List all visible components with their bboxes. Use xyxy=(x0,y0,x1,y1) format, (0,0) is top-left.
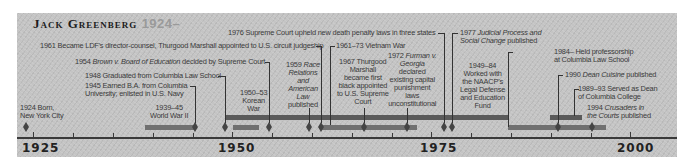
label-naacp: 1949–84 Worked with the NAACP's Legal De… xyxy=(460,62,505,110)
axis-tick xyxy=(630,132,631,137)
axis-tick xyxy=(511,133,512,137)
event-diamond-race xyxy=(306,122,312,132)
leader-ba xyxy=(195,86,196,123)
axis-tick xyxy=(232,132,233,137)
label-line: published xyxy=(286,101,320,109)
leader-race xyxy=(309,108,310,123)
label-rest: published xyxy=(507,36,537,45)
label-rest: published xyxy=(626,70,656,79)
label-dean: 1989–93 Served as Dean of Columbia Colle… xyxy=(578,85,657,101)
axis-tick xyxy=(352,133,353,137)
leader-gregg xyxy=(444,33,445,123)
leader-cuisine-h xyxy=(558,75,563,76)
axis-tick xyxy=(33,132,34,137)
label-year: 1990 xyxy=(565,70,581,79)
label-marshall: 1967 Thurgood Marshall became first blac… xyxy=(337,58,389,106)
label-line: War xyxy=(240,105,267,113)
leader-judicial xyxy=(452,33,453,123)
axis-tick xyxy=(591,133,592,137)
event-diamond-director xyxy=(318,122,324,132)
naacp-ldf-bar xyxy=(225,115,508,120)
label-director: 1961 Became LDF's director-counsel, Thur… xyxy=(40,42,323,50)
leader-gregg-h xyxy=(438,33,445,34)
korean-war-bar xyxy=(233,125,259,130)
axis-label-1975: 1975 xyxy=(420,141,457,155)
label-line: of Columbia College xyxy=(578,93,657,101)
dean-bar xyxy=(550,115,582,120)
leader-marshall xyxy=(364,108,365,123)
event-diamond-brown xyxy=(266,122,272,132)
axis-tick xyxy=(551,133,552,137)
timeline-axis xyxy=(17,137,677,139)
label-born: 1924 Born, New York City xyxy=(20,104,63,120)
event-diamond-law xyxy=(222,122,228,132)
label-rest: decided by Supreme Court xyxy=(182,57,265,66)
label-case: Brown v. Board of Education xyxy=(93,57,181,66)
label-gregg: 1976 Supreme Court upheld new death pena… xyxy=(228,29,435,37)
leader-dean xyxy=(574,89,575,116)
leader-judicial-h xyxy=(452,33,458,34)
event-diamond-crusaders xyxy=(589,122,595,132)
vietnam-war-bar xyxy=(321,125,417,130)
label-line: Fund xyxy=(460,102,505,110)
leader-director xyxy=(321,46,322,123)
event-diamond-judicial xyxy=(449,122,455,132)
axis-tick xyxy=(312,133,313,137)
label-race: 1959 Race Relations and American Law pub… xyxy=(286,61,320,109)
label-vietnam: 1961–73 Vietnam War xyxy=(336,42,405,50)
leader-brown xyxy=(269,62,270,123)
axis-tick xyxy=(193,133,194,137)
label-line: New York City xyxy=(20,112,63,120)
axis-label-2000: 2000 xyxy=(617,141,654,155)
label-prof: 1984– Held professorship at Columbia Law… xyxy=(554,48,633,64)
axis-tick xyxy=(113,133,114,137)
label-line: unconstitutional xyxy=(388,100,436,108)
title-name: Jack Greenberg xyxy=(33,16,137,31)
leader-prof xyxy=(508,52,509,127)
label-line: at Columbia Law School xyxy=(554,56,633,64)
label-title: the Courts xyxy=(587,111,619,120)
leader-law xyxy=(225,76,226,123)
label-brown: 1954 Brown v. Board of Education decided… xyxy=(75,58,265,66)
label-title: Dean Cuisine xyxy=(583,70,625,79)
label-law: 1948 Graduated from Columbia Law School xyxy=(85,72,221,80)
label-cuisine: 1990 Dean Cuisine published xyxy=(565,71,656,79)
axis-label-1925: 1925 xyxy=(22,141,59,155)
leader-vietnam-h xyxy=(330,46,335,47)
axis-tick xyxy=(392,133,393,137)
axis-tick xyxy=(431,132,432,137)
event-diamond-ba xyxy=(192,122,198,132)
label-line: World War II xyxy=(150,112,188,120)
event-diamond-furman xyxy=(404,122,410,132)
label-ww2: 1939–45 World War II xyxy=(150,104,188,120)
event-diamond-marshall xyxy=(361,122,367,132)
label-judicial: 1977 Judicial Process and Social Change … xyxy=(460,29,541,45)
leader-brown-h xyxy=(265,62,270,63)
ww2-bar xyxy=(145,125,195,130)
axis-tick xyxy=(153,133,154,137)
event-diamond-born xyxy=(23,122,29,132)
event-diamond-cuisine xyxy=(555,122,561,132)
title-years: 1924– xyxy=(142,16,181,31)
label-ba: 1945 Earned B.A. from Columbia Universit… xyxy=(85,82,187,98)
leader-prof-h xyxy=(508,52,513,53)
label-korea: 1950–53 Korean War xyxy=(240,89,267,113)
leader-cuisine xyxy=(558,75,559,123)
label-year: 1954 xyxy=(75,57,91,66)
label-line: University; enlisted in U.S. Navy xyxy=(85,90,187,98)
label-title: Social Change xyxy=(460,36,505,45)
label-line: Court xyxy=(337,98,389,106)
label-rest: published xyxy=(621,111,651,120)
leader-furman xyxy=(407,108,408,123)
axis-tick xyxy=(272,133,273,137)
event-diamond-gregg xyxy=(441,122,447,132)
leader-vietnam xyxy=(330,46,331,125)
axis-label-1950: 1950 xyxy=(218,141,255,155)
label-crusaders: 1994 Crusaders in the Courts published xyxy=(587,104,651,120)
label-furman: 1972 Furman v. Georgia declared existing… xyxy=(388,52,436,108)
axis-tick xyxy=(73,133,74,137)
timeline-title: Jack Greenberg 1924– xyxy=(33,16,180,32)
axis-tick xyxy=(471,133,472,137)
leader-ba-h xyxy=(190,86,196,87)
